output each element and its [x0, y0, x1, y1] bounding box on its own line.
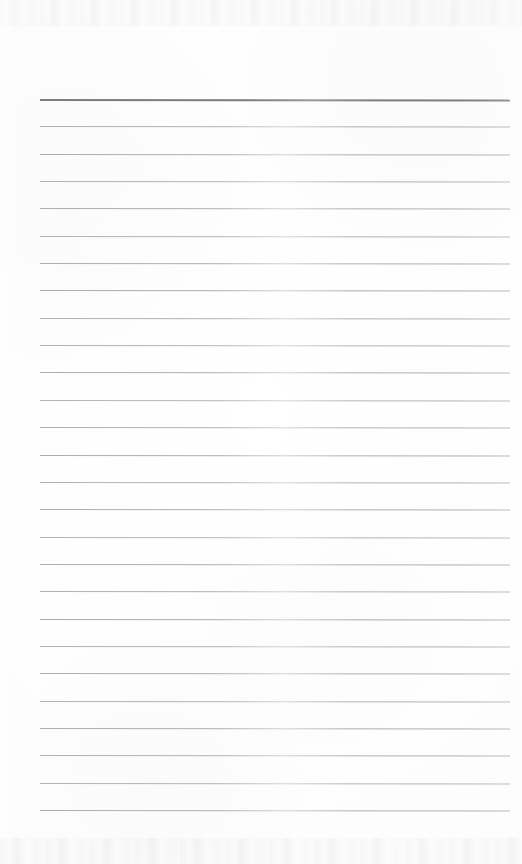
rule-line [40, 537, 510, 538]
rule-line [40, 701, 510, 702]
rule-line [40, 783, 510, 784]
rule-line [40, 154, 510, 155]
rule-line [40, 509, 510, 510]
scanned-page [0, 0, 522, 864]
rule-line [40, 372, 510, 373]
rule-line [40, 673, 510, 674]
rule-line [40, 263, 510, 264]
rule-fade-overlay [0, 0, 522, 864]
rule-line [40, 564, 510, 565]
rule-line [40, 318, 510, 319]
rule-line [40, 400, 510, 401]
rule-line [40, 755, 510, 756]
scan-artifact-bottom-band [0, 838, 522, 864]
ruled-lines-layer [0, 0, 522, 864]
rule-line [40, 181, 510, 182]
rule-line [40, 482, 510, 483]
rule-line [40, 236, 510, 237]
paper-mottling [0, 0, 522, 864]
rule-line [40, 591, 510, 592]
rule-line [40, 455, 510, 456]
rule-line [40, 619, 510, 620]
rule-line [40, 99, 510, 101]
scan-artifact-top-band [0, 0, 522, 26]
rule-line [40, 126, 510, 127]
rule-line [40, 646, 510, 647]
rule-line [40, 208, 510, 209]
rule-line [40, 427, 510, 428]
rule-line [40, 728, 510, 729]
rule-line [40, 345, 510, 346]
rule-line [40, 810, 510, 811]
rule-line [40, 290, 510, 291]
paper-background [0, 0, 522, 864]
